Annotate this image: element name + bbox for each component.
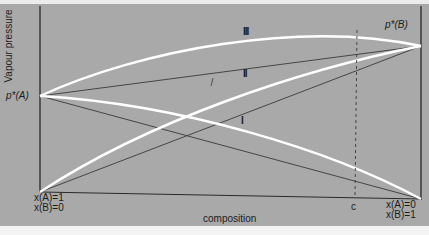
composition-c-label: c [351, 202, 356, 212]
curve-label-II: II [243, 69, 247, 79]
composition-c-dashed-line [355, 30, 357, 198]
ideal-total-pressure-line [40, 46, 421, 96]
left-composition-xb: x(B)=0 [34, 203, 64, 213]
x-axis [40, 192, 421, 199]
right-composition-xb: x(B)=1 [386, 210, 416, 220]
partial-pressure-b-line [40, 46, 421, 192]
tick-mark [211, 78, 213, 86]
curve-III [40, 36, 421, 96]
vapour-pressure-diagram [0, 0, 429, 235]
partial-pressure-a-line [40, 96, 421, 199]
right-point-label: p*(B) [385, 20, 408, 30]
curve-label-III: III [243, 27, 248, 37]
y-axis-label: Vapour pressure [2, 6, 14, 86]
curve-label-I: I [241, 116, 243, 126]
left-point-label: p*(A) [6, 91, 29, 101]
x-axis-label: composition [203, 214, 256, 224]
